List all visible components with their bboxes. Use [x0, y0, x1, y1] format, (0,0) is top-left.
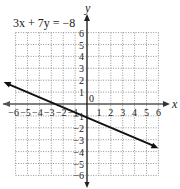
svg-text:3: 3 [120, 107, 125, 118]
svg-text:−4: −4 [73, 147, 84, 158]
svg-text:0: 0 [89, 93, 94, 104]
svg-text:−6: −6 [8, 107, 19, 118]
svg-text:−5: −5 [20, 107, 31, 118]
svg-text:2: 2 [79, 75, 84, 86]
svg-text:2: 2 [108, 107, 113, 118]
svg-text:1: 1 [96, 107, 101, 118]
svg-text:6: 6 [79, 28, 84, 39]
equation-label: 3x + 7y = −8 [13, 16, 75, 30]
svg-text:−3: −3 [73, 135, 84, 146]
svg-text:−3: −3 [44, 107, 55, 118]
svg-text:−5: −5 [73, 159, 84, 170]
svg-text:5: 5 [144, 107, 149, 118]
svg-text:1: 1 [79, 87, 84, 98]
svg-text:−6: −6 [73, 170, 84, 181]
graph: −6−5−4−3−2−11234560654321−1−2−3−4−5−6 3x… [0, 0, 180, 189]
svg-text:5: 5 [79, 40, 84, 51]
axes [3, 14, 170, 188]
svg-text:−2: −2 [73, 123, 84, 134]
svg-text:−4: −4 [32, 107, 43, 118]
svg-text:4: 4 [79, 51, 84, 62]
y-axis-label: y [84, 1, 91, 15]
svg-text:4: 4 [132, 107, 137, 118]
svg-text:3: 3 [79, 63, 84, 74]
x-axis-label: x [171, 97, 178, 111]
svg-text:6: 6 [156, 107, 161, 118]
